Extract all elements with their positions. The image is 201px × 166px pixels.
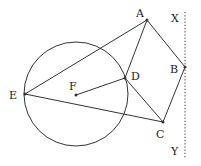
point-labels: A B C D E F X Y <box>9 7 179 158</box>
label-c: C <box>156 128 164 141</box>
segment-ab <box>147 20 185 67</box>
point-d <box>124 77 127 80</box>
point-e <box>24 93 27 96</box>
points <box>24 19 187 124</box>
point-f <box>75 94 78 97</box>
label-e: E <box>9 89 17 102</box>
point-b <box>184 66 187 69</box>
line-segments <box>25 20 185 122</box>
geometry-diagram: A B C D E F X Y <box>0 0 201 166</box>
point-a <box>146 19 149 22</box>
label-f: F <box>69 80 77 93</box>
label-b: B <box>170 63 178 76</box>
label-y: Y <box>170 145 179 158</box>
point-c <box>162 121 165 124</box>
label-a: A <box>135 7 145 20</box>
segment-fd <box>76 78 125 95</box>
label-x: X <box>171 12 179 25</box>
label-d: D <box>131 70 140 83</box>
